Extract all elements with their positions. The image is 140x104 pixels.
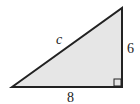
- right-triangle-diagram: c 6 8: [0, 0, 140, 104]
- triangle-shape: [12, 8, 122, 87]
- hypotenuse-label: c: [56, 32, 63, 47]
- horizontal-leg-label: 8: [67, 90, 74, 104]
- vertical-leg-label: 6: [127, 41, 134, 56]
